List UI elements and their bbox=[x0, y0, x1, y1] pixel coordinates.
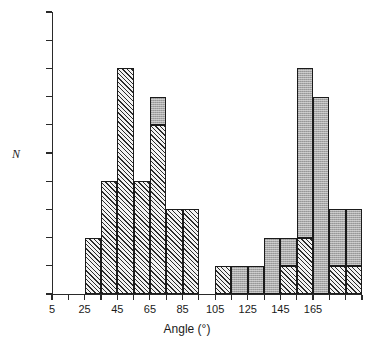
bar-segment-hatched bbox=[150, 125, 166, 294]
histogram-bar bbox=[183, 209, 199, 294]
bar-segment-hatched bbox=[117, 68, 133, 294]
x-tick bbox=[117, 295, 118, 300]
x-tick-label: 65 bbox=[135, 303, 165, 315]
histogram-bar bbox=[101, 181, 117, 294]
bar-segment-hatched bbox=[166, 209, 182, 294]
histogram-figure: 012345678910 525456585105125145165 N Ang… bbox=[0, 0, 374, 348]
x-tick bbox=[133, 295, 134, 300]
bar-segment-hatched bbox=[297, 238, 313, 294]
x-tick-label: 165 bbox=[298, 303, 328, 315]
y-axis-line bbox=[52, 12, 53, 295]
x-tick bbox=[329, 295, 330, 300]
bar-segment-shaded bbox=[297, 68, 313, 237]
x-tick-label: 25 bbox=[70, 303, 100, 315]
bar-segment-shaded bbox=[248, 266, 264, 294]
histogram-bar bbox=[117, 68, 133, 294]
bar-segment-hatched bbox=[134, 181, 150, 294]
x-tick-label: 45 bbox=[102, 303, 132, 315]
x-tick bbox=[296, 295, 297, 300]
x-axis-line bbox=[52, 294, 362, 295]
histogram-bar bbox=[231, 266, 247, 294]
x-tick bbox=[361, 295, 362, 300]
x-tick-label: 125 bbox=[233, 303, 263, 315]
x-tick bbox=[100, 295, 101, 300]
x-tick bbox=[182, 295, 183, 300]
histogram-bar bbox=[313, 97, 329, 294]
bar-segment-shaded bbox=[150, 97, 166, 125]
bar-segment-hatched bbox=[183, 209, 199, 294]
bar-segment-hatched bbox=[346, 266, 362, 294]
bar-segment-hatched bbox=[280, 266, 296, 294]
histogram-bar bbox=[166, 209, 182, 294]
bar-segment-shaded bbox=[346, 209, 362, 265]
bar-segment-hatched bbox=[85, 238, 101, 294]
x-tick bbox=[68, 295, 69, 300]
histogram-bar bbox=[248, 266, 264, 294]
bar-segment-shaded bbox=[264, 238, 280, 294]
y-axis-title: N bbox=[12, 147, 20, 162]
x-tick bbox=[84, 295, 85, 300]
x-tick-label: 5 bbox=[37, 303, 67, 315]
x-tick bbox=[264, 295, 265, 300]
x-tick-label: 85 bbox=[168, 303, 198, 315]
histogram-bar bbox=[264, 238, 280, 294]
histogram-bar bbox=[134, 181, 150, 294]
bar-segment-shaded bbox=[280, 238, 296, 266]
histogram-bar bbox=[297, 68, 313, 294]
histogram-bar bbox=[85, 238, 101, 294]
histogram-bar bbox=[280, 238, 296, 294]
histogram-bar bbox=[150, 97, 166, 294]
x-tick-label: 105 bbox=[200, 303, 230, 315]
x-tick-label: 145 bbox=[265, 303, 295, 315]
bar-segment-hatched bbox=[329, 266, 345, 294]
bar-segment-shaded bbox=[231, 266, 247, 294]
x-tick bbox=[231, 295, 232, 300]
histogram-bar bbox=[329, 209, 345, 294]
x-tick bbox=[166, 295, 167, 300]
x-tick bbox=[312, 295, 313, 300]
x-tick bbox=[280, 295, 281, 300]
x-tick bbox=[198, 295, 199, 300]
bar-segment-hatched bbox=[215, 266, 231, 294]
x-tick bbox=[247, 295, 248, 300]
x-tick bbox=[51, 295, 52, 300]
bar-segment-shaded bbox=[329, 209, 345, 265]
histogram-bar bbox=[215, 266, 231, 294]
bar-segment-shaded bbox=[313, 97, 329, 294]
bar-segment-hatched bbox=[101, 181, 117, 294]
x-tick bbox=[345, 295, 346, 300]
x-axis-title: Angle (°) bbox=[0, 322, 374, 336]
x-tick bbox=[149, 295, 150, 300]
x-tick bbox=[215, 295, 216, 300]
histogram-bar bbox=[346, 209, 362, 294]
